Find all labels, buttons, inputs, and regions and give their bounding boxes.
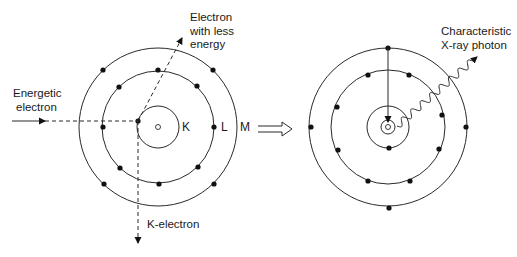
label-line: Electron [190,11,234,25]
electron-dot [210,67,215,72]
label-line: Characteristic [441,25,511,39]
electron-dot [386,205,391,210]
electron-dot [155,67,160,72]
electron-dot [211,181,216,186]
electron-dot [407,178,412,183]
scattered-electron-arrow [138,38,182,121]
shell-label-l: L [221,120,228,134]
electron-with-less-energy-label: Electron with less energy [190,11,234,52]
electron-dot [117,165,122,170]
diagram-stage: Energetic electron Electron with less en… [0,0,517,257]
label-line: X-ray photon [441,39,511,53]
shell-label-k: K [182,120,190,134]
electron-dot [211,124,216,129]
x-ray-production-diagram [0,0,517,257]
nucleus-icon [156,125,161,130]
arrows [12,38,477,243]
electron-dot [386,145,391,150]
electron-dot [101,181,106,186]
electron-dot [100,124,105,129]
electron-dot [308,124,313,129]
electron-dot [436,146,441,151]
shell-label-m: M [240,120,250,134]
electron-dot [334,104,339,109]
electron-dot [335,147,340,152]
label-line: with less [190,25,234,39]
electron-dot [463,124,468,129]
electron-dot [116,84,121,89]
nucleus-icon [386,125,391,130]
xray-photon-wave [397,57,477,127]
electron-dot [100,67,105,72]
process-arrow-icon [258,122,292,136]
electron-dot [365,72,370,77]
k-electron-label: K-electron [147,218,199,232]
label-line: Energetic [13,87,62,101]
label-line: electron [13,101,62,115]
electron-dot [194,83,199,88]
energetic-electron-label: Energetic electron [13,87,62,114]
electron-dot [406,72,411,77]
electron-dot [195,164,200,169]
electron-dot [439,112,444,117]
label-line: energy [190,38,234,52]
electron-dot [156,181,161,186]
electron-dot [365,178,370,183]
characteristic-xray-photon-label: Characteristic X-ray photon [441,25,511,52]
left-atom [79,48,237,206]
